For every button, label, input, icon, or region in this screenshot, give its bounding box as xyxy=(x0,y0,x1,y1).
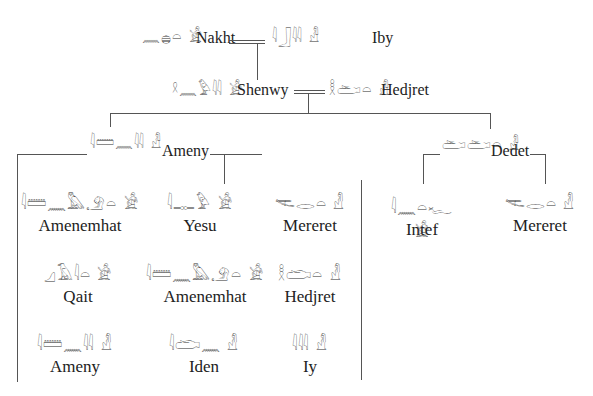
marriage-line-bottom xyxy=(229,43,265,44)
child-name: Iden xyxy=(164,357,244,377)
ameny-children-mid xyxy=(224,154,225,184)
ameny-bar-right xyxy=(210,154,224,155)
ameny-hieroglyphs: 𓇋𓏠𓈖𓇌 𓁐 xyxy=(90,128,162,153)
hieroglyphs: 𓇋𓊃𓅱 𓀀 xyxy=(160,192,240,216)
child-iy[interactable]: 𓇋𓇌 𓁐 Iy xyxy=(280,333,340,377)
hieroglyphs: 𓇋𓏠𓈖𓅓𓄂𓏏 𓀀 xyxy=(20,192,140,216)
child-hedjret[interactable]: 𓎛𓂧𓏏 𓁐 Hedjret xyxy=(270,263,350,307)
drop-to-dedet xyxy=(490,113,491,129)
child-iden[interactable]: 𓇋𓂧𓈖 𓁐 Iden xyxy=(164,333,244,377)
hieroglyphs: 𓇋𓏠𓈖𓅓𓄂𓏏 𓀀 xyxy=(145,263,265,287)
hieroglyphs: 𓇋𓇌 𓁐 xyxy=(280,333,340,357)
marriage-line-top-2 xyxy=(294,90,325,91)
iby-hieroglyphs: 𓇋𓃀𓇌 𓁐 xyxy=(272,22,320,47)
person-ameny[interactable]: Ameny xyxy=(162,142,209,160)
dedet-drop-right xyxy=(545,154,546,184)
child-intef[interactable]: 𓇋𓈖𓏏𓆑 𓀀 Intef xyxy=(382,196,462,240)
descent-line-gen1 xyxy=(257,44,258,80)
hieroglyphs: 𓎛𓂧𓏏 𓁐 xyxy=(270,263,350,287)
child-name: Qait xyxy=(28,287,128,307)
hieroglyphs: 𓇋𓏠𓈖𓇌 𓁐 xyxy=(35,333,115,357)
child-qait[interactable]: 𓈎𓄿𓇋𓏏 𓀀 Qait xyxy=(28,263,128,307)
person-shenwy[interactable]: Shenwy xyxy=(237,81,289,99)
dedet-bar-right xyxy=(530,154,545,155)
child-mereret-dedet[interactable]: 𓌻𓂋𓏏 𓁐 Mereret xyxy=(500,192,580,236)
person-nakht[interactable]: Nakht xyxy=(196,29,235,47)
person-hedjret[interactable]: Hedjret xyxy=(381,81,429,99)
ameny-children-rightline xyxy=(361,180,362,380)
child-name: Amenemhat xyxy=(145,287,265,307)
child-name: Intef xyxy=(382,220,462,240)
hieroglyphs: 𓇋𓈖𓏏𓆑 𓀀 xyxy=(382,196,462,220)
child-name: Amenemhat xyxy=(20,216,140,236)
child-name: Ameny xyxy=(35,357,115,377)
hieroglyphs: 𓌻𓂋𓏏 𓁐 xyxy=(270,192,350,216)
ameny-bar-left xyxy=(17,154,87,155)
ameny-bar-far-right xyxy=(224,154,262,155)
child-ameny[interactable]: 𓇋𓏠𓈖𓇌 𓁐 Ameny xyxy=(35,333,115,377)
sibling-bar-gen3 xyxy=(110,113,491,114)
child-name: Hedjret xyxy=(270,287,350,307)
nakht-hieroglyphs: 𓈖𓐍𓏏 𓀀 xyxy=(142,22,203,47)
shenwy-hieroglyphs: 𓍲𓈖𓅱𓇌 𓀀 xyxy=(172,75,243,100)
child-name: Mereret xyxy=(500,216,580,236)
descent-line-gen2 xyxy=(308,94,309,113)
child-yesu[interactable]: 𓇋𓊃𓅱 𓀀 Yesu xyxy=(160,192,240,236)
child-amenemhat-2[interactable]: 𓇋𓏠𓈖𓅓𓄂𓏏 𓀀 Amenemhat xyxy=(145,263,265,307)
hieroglyphs: 𓌻𓂋𓏏 𓁐 xyxy=(500,192,580,216)
child-amenemhat[interactable]: 𓇋𓏠𓈖𓅓𓄂𓏏 𓀀 Amenemhat xyxy=(20,192,140,236)
marriage-line-bottom-2 xyxy=(294,93,325,94)
child-name: Mereret xyxy=(270,216,350,236)
drop-to-ameny xyxy=(110,113,111,127)
child-name: Iy xyxy=(280,357,340,377)
hieroglyphs: 𓈎𓄿𓇋𓏏 𓀀 xyxy=(28,263,128,287)
dedet-bar-left xyxy=(423,154,440,155)
dedet-drop-left xyxy=(423,154,424,184)
marriage-line-top xyxy=(229,40,265,41)
person-iby[interactable]: Iby xyxy=(372,29,393,47)
person-dedet[interactable]: Dedet xyxy=(491,142,529,160)
child-name: Yesu xyxy=(160,216,240,236)
ameny-children-left xyxy=(17,154,18,382)
child-mereret[interactable]: 𓌻𓂋𓏏 𓁐 Mereret xyxy=(270,192,350,236)
hieroglyphs: 𓇋𓂧𓈖 𓁐 xyxy=(164,333,244,357)
